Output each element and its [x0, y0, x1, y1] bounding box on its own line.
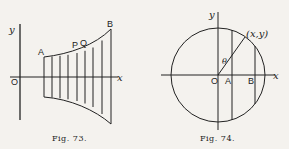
fig74-angle-label: θ: [222, 57, 227, 66]
fig73-q-label: Q: [80, 38, 87, 48]
fig73-a-label: A: [38, 47, 44, 57]
fig73-origin-label: O: [11, 77, 18, 87]
fig74-y-label: y: [208, 9, 215, 20]
figure-73: [10, 24, 118, 124]
fig74-x-label: x: [273, 70, 279, 81]
fig73-lower-curve: [44, 97, 111, 124]
fig74-caption: Fig. 74.: [200, 134, 235, 143]
fig74-b-label: B: [248, 76, 254, 86]
fig73-y-label: y: [8, 24, 15, 35]
figures-canvas: y x O A B P Q Fig. 73. y x O A B (x,y) θ…: [0, 0, 289, 149]
fig74-origin-label: O: [211, 76, 218, 86]
fig73-b-label: B: [107, 19, 113, 29]
fig74-point-label: (x,y): [246, 28, 268, 39]
fig74-a-label: A: [225, 76, 231, 86]
fig73-p-label: P: [72, 40, 78, 50]
fig73-x-label: x: [117, 72, 123, 83]
fig73-caption: Fig. 73.: [52, 134, 87, 143]
